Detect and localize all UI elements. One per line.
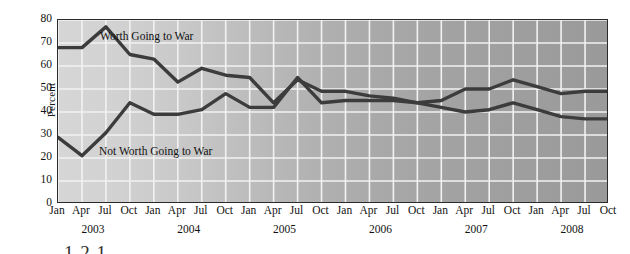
x-tick-label: Oct — [216, 205, 233, 217]
x-tick-label: Oct — [600, 205, 617, 217]
y-tick-label: 30 — [30, 128, 52, 140]
plot-svg — [58, 20, 608, 203]
x-tick-label: Apr — [551, 205, 569, 217]
x-tick-label: Apr — [72, 205, 90, 217]
y-tick-label: 40 — [30, 105, 52, 117]
chart-figure: Percent 01020304050607080 Worth Going to… — [0, 0, 630, 254]
x-tick-label: Jul — [194, 205, 207, 217]
series-lines — [58, 27, 608, 156]
caption-fragment: 1 2 1 — [64, 243, 184, 254]
x-tick-label: Apr — [168, 205, 186, 217]
x-axis-year-labels: 200320042005200620072008 — [0, 224, 630, 240]
plot-area — [57, 19, 608, 203]
x-tick-label: Jan — [49, 205, 64, 217]
x-tick-label: Jul — [577, 205, 590, 217]
x-tick-label: Jan — [528, 205, 543, 217]
series-label-worth-going-to-war: Worth Going to War — [100, 31, 193, 43]
x-tick-label: Jan — [145, 205, 160, 217]
x-axis-year-label: 2007 — [465, 224, 488, 236]
x-tick-label: Apr — [264, 205, 282, 217]
series-label-not-worth-going-to-war: Not Worth Going to War — [99, 146, 212, 158]
x-tick-label: Oct — [121, 205, 138, 217]
y-tick-label: 70 — [30, 36, 52, 48]
x-axis-year-label: 2004 — [177, 224, 200, 236]
y-tick-label: 50 — [30, 82, 52, 94]
x-tick-label: Jul — [481, 205, 494, 217]
x-tick-label: Oct — [408, 205, 425, 217]
x-tick-label: Jan — [337, 205, 352, 217]
gridlines — [58, 20, 608, 203]
x-tick-label: Apr — [359, 205, 377, 217]
x-tick-label: Jan — [241, 205, 256, 217]
y-tick-label: 80 — [30, 13, 52, 25]
x-tick-label: Jan — [433, 205, 448, 217]
y-tick-label: 60 — [30, 59, 52, 71]
x-axis-year-label: 2005 — [273, 224, 296, 236]
y-tick-label: 10 — [30, 174, 52, 186]
y-tick-label: 20 — [30, 151, 52, 163]
x-tick-label: Oct — [504, 205, 521, 217]
x-tick-label: Apr — [455, 205, 473, 217]
x-axis-year-label: 2008 — [561, 224, 584, 236]
x-tick-label: Oct — [312, 205, 329, 217]
x-tick-label: Jul — [386, 205, 399, 217]
x-tick-label: Jul — [290, 205, 303, 217]
x-tick-label: Jul — [98, 205, 111, 217]
x-axis-tick-labels: JanAprJulOctJanAprJulOctJanAprJulOctJanA… — [0, 205, 630, 223]
x-axis-year-label: 2003 — [81, 224, 104, 236]
x-axis-year-label: 2006 — [369, 224, 392, 236]
